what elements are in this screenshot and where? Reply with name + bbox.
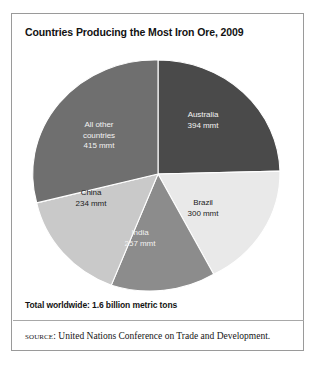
pie-label-brazil: Brazil 300 mmt (165, 198, 241, 219)
figure-frame: Countries Producing the Most Iron Ore, 2… (11, 13, 304, 351)
pie-label-china: China 234 mmt (55, 188, 127, 209)
pie-label-india: India 257 mmt (105, 228, 175, 249)
footer-divider (13, 320, 304, 321)
total-worldwide-note: Total worldwide: 1.6 billion metric tons (25, 300, 293, 310)
source-label: source: (25, 331, 56, 341)
page-title: Countries Producing the Most Iron Ore, 2… (25, 26, 290, 38)
source-text: United Nations Conference on Trade and D… (58, 331, 270, 341)
pie-label-all-other-countries: All other countries 415 mmt (59, 120, 139, 152)
pie-chart: Australia 394 mmt Brazil 300 mmt India 2… (29, 58, 287, 291)
pie-label-australia: Australia 394 mmt (161, 110, 245, 131)
source-credit: source: United Nations Conference on Tra… (25, 330, 297, 342)
pie-chart-svg (29, 58, 287, 291)
